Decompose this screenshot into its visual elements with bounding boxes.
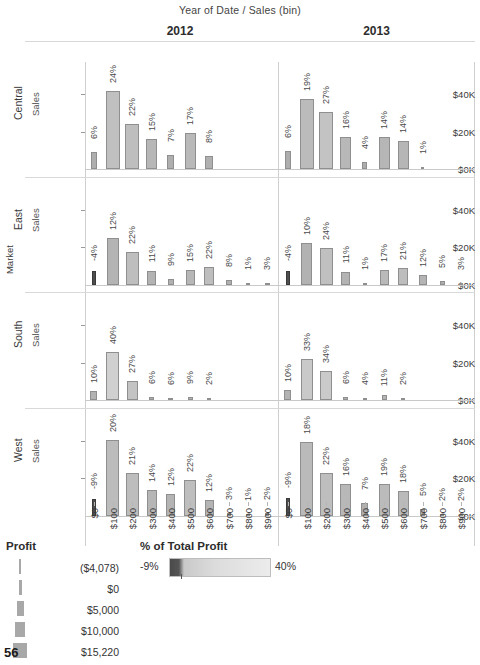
bar-value-label: 6% xyxy=(166,372,176,385)
size-legend-item[interactable]: $5,000 xyxy=(6,598,131,619)
market-label-central: Central xyxy=(12,68,28,138)
bar[interactable] xyxy=(90,391,97,400)
bar[interactable] xyxy=(382,395,387,400)
bar[interactable] xyxy=(320,371,332,400)
bar[interactable] xyxy=(91,152,97,169)
x-tick-label: $900 xyxy=(456,508,467,529)
bar[interactable] xyxy=(127,381,138,400)
bar[interactable] xyxy=(185,133,196,169)
bar[interactable] xyxy=(188,397,193,400)
color-ramp-tick xyxy=(181,574,182,579)
plot-area: CentralSales$40K$20K$0K6%24%22%15%7%17%8… xyxy=(85,43,475,505)
bar[interactable] xyxy=(398,268,408,285)
bar[interactable] xyxy=(285,151,291,169)
x-tick-mark xyxy=(248,502,249,506)
bar[interactable] xyxy=(126,252,139,285)
bar-value-label: 16% xyxy=(341,111,351,129)
color-legend-title: % of Total Profit xyxy=(140,540,340,552)
bar-value-label: 14% xyxy=(379,111,389,129)
bar[interactable] xyxy=(205,156,213,170)
bar[interactable] xyxy=(362,162,367,170)
bar[interactable] xyxy=(284,390,291,400)
bar[interactable] xyxy=(363,283,367,285)
bar-value-label: 19% xyxy=(379,458,389,476)
x-tick-label: $0 xyxy=(283,508,294,519)
bar[interactable] xyxy=(125,124,139,169)
bar[interactable] xyxy=(300,99,314,169)
bar-value-label: 40% xyxy=(108,326,118,344)
bar-value-label: 15% xyxy=(185,244,195,262)
bar[interactable] xyxy=(320,248,333,285)
bar-value-label: 6% xyxy=(341,371,351,384)
bar[interactable] xyxy=(340,137,351,169)
bar[interactable] xyxy=(147,271,156,284)
y-tick-mark xyxy=(81,478,85,479)
size-legend-item[interactable]: $10,000 xyxy=(6,619,131,640)
bar[interactable] xyxy=(207,398,211,400)
bar[interactable] xyxy=(106,352,119,400)
bar[interactable] xyxy=(319,112,333,169)
bar-value-label: 14% xyxy=(398,115,408,133)
bar[interactable] xyxy=(286,271,290,284)
y-axis-title: Sales xyxy=(30,423,46,479)
x-tick-mark xyxy=(190,502,191,506)
profit-legend-title: Profit xyxy=(6,540,131,552)
chart-page: Year of Date / Sales (bin) 2012 2013 Cen… xyxy=(0,0,480,665)
bar[interactable] xyxy=(343,397,348,400)
bar[interactable] xyxy=(459,283,463,285)
bar[interactable] xyxy=(401,398,405,400)
bar[interactable] xyxy=(146,139,157,169)
x-tick-mark xyxy=(209,502,210,506)
bar[interactable] xyxy=(301,359,313,400)
color-ramp-wrapper: -9% 40% xyxy=(140,557,340,579)
bar-value-label: 11% xyxy=(379,369,389,386)
x-tick-label: $0 xyxy=(89,508,100,519)
column-facet-title: Year of Date / Sales (bin) xyxy=(0,4,480,16)
x-tick-label: $800 xyxy=(437,508,448,529)
bar[interactable] xyxy=(226,280,232,285)
y-tick-mark xyxy=(81,363,85,364)
bar[interactable] xyxy=(168,398,173,400)
x-tick-mark xyxy=(326,502,327,506)
bar-value-label: 6% xyxy=(283,125,293,138)
color-legend-max-label: 40% xyxy=(275,560,296,572)
bar[interactable] xyxy=(107,238,119,285)
bar-value-label: -9% xyxy=(89,473,99,489)
x-tick-mark xyxy=(365,502,366,506)
bar[interactable] xyxy=(341,272,350,284)
bar[interactable] xyxy=(149,397,154,400)
bar[interactable] xyxy=(167,155,174,169)
bar-value-label: 17% xyxy=(185,107,195,125)
bar-value-label: 6% xyxy=(89,126,99,139)
bar[interactable] xyxy=(168,279,174,285)
bar[interactable] xyxy=(106,91,120,169)
bar-value-label: 3% xyxy=(456,257,466,270)
bar[interactable] xyxy=(246,283,250,285)
bar[interactable] xyxy=(419,275,427,284)
x-tick-mark xyxy=(384,502,385,506)
bar[interactable] xyxy=(265,283,270,285)
y-tick-mark xyxy=(81,210,85,211)
x-tick-mark xyxy=(94,502,95,506)
size-legend-item[interactable]: $15,220 xyxy=(6,640,131,661)
bar-value-label: 19% xyxy=(302,73,312,91)
x-tick-label: $500 xyxy=(379,508,390,529)
x-tick-label: $700 xyxy=(418,508,429,529)
bar[interactable] xyxy=(440,281,445,284)
bar[interactable] xyxy=(380,270,389,285)
bar[interactable] xyxy=(379,137,390,169)
bar[interactable] xyxy=(204,267,214,285)
size-legend-item[interactable]: $0 xyxy=(6,577,131,598)
bar[interactable] xyxy=(301,243,312,284)
size-legend-item[interactable]: ($4,078) xyxy=(6,556,131,577)
bar[interactable] xyxy=(186,270,195,284)
bar[interactable] xyxy=(92,271,96,284)
bar-value-label: 16% xyxy=(341,458,351,476)
size-legend-label: ($4,078) xyxy=(80,562,119,574)
bar[interactable] xyxy=(421,167,424,169)
y-tick-mark xyxy=(81,441,85,442)
bar[interactable] xyxy=(363,398,367,400)
bar-value-label: 18% xyxy=(398,465,408,483)
bar[interactable] xyxy=(398,141,409,169)
bar-value-label: 8% xyxy=(204,130,214,143)
